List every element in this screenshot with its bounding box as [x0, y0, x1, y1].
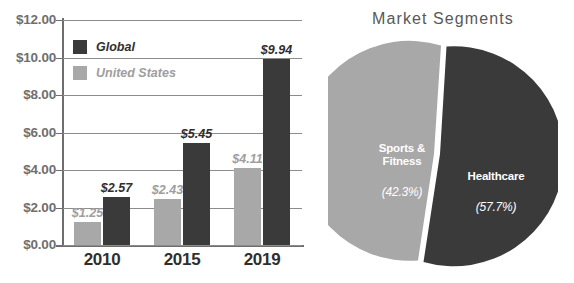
- chart-page: $12.00$10.00$8.00$6.00$4.00$2.00$0.00 $1…: [0, 0, 574, 283]
- y-axis-tick-mark: [56, 208, 63, 209]
- y-axis-labels: $12.00$10.00$8.00$6.00$4.00$2.00$0.00: [0, 0, 56, 283]
- y-axis-tick-mark: [56, 133, 63, 134]
- bar-united-states-2019[interactable]: [234, 168, 261, 245]
- y-axis-tick-label: $12.00: [0, 13, 56, 27]
- y-axis-tick-mark: [56, 95, 63, 96]
- legend-swatch-global-icon: [73, 40, 87, 54]
- y-axis-tick-label: $0.00: [0, 238, 56, 252]
- pie-chart: Market Segments Sports & Fitness (42.3%)…: [312, 0, 574, 283]
- grouped-bar-chart: $12.00$10.00$8.00$6.00$4.00$2.00$0.00 $1…: [0, 0, 312, 283]
- x-axis-label-2015: 2015: [142, 251, 222, 268]
- bar-value-label-global-2010: $2.57: [94, 182, 139, 195]
- pie-chart-title: Market Segments: [312, 11, 574, 27]
- bar-value-label-global-2019: $9.94: [254, 44, 299, 57]
- y-axis-tick-label: $2.00: [0, 201, 56, 215]
- y-axis-tick-mark: [56, 245, 63, 246]
- pie-slice-healthcare[interactable]: [424, 46, 559, 266]
- bar-global-2019[interactable]: [263, 59, 290, 245]
- bar-global-2015[interactable]: [183, 143, 210, 245]
- legend-item-global[interactable]: Global: [73, 36, 176, 58]
- y-axis-tick-label: $6.00: [0, 126, 56, 140]
- bar-united-states-2010[interactable]: [74, 222, 101, 245]
- grid-line: [62, 20, 302, 21]
- y-axis-tick-label: $10.00: [0, 51, 56, 65]
- legend-label-united-states: United States: [96, 67, 176, 80]
- pie-chart-svg: [328, 40, 558, 270]
- legend-label-global: Global: [96, 41, 135, 54]
- x-axis-label-2010: 2010: [62, 251, 142, 268]
- bar-value-label-global-2015: $5.45: [174, 128, 219, 141]
- pie-slice-sports-fitness[interactable]: [328, 41, 441, 261]
- y-axis-tick-label: $4.00: [0, 163, 56, 177]
- y-axis-tick-label: $8.00: [0, 88, 56, 102]
- legend-item-united-states[interactable]: United States: [73, 62, 176, 84]
- bar-united-states-2015[interactable]: [154, 199, 181, 245]
- grid-line: [62, 245, 302, 246]
- bar-chart-legend: Global United States: [73, 36, 176, 88]
- bar-global-2010[interactable]: [103, 197, 130, 245]
- y-axis-tick-mark: [56, 170, 63, 171]
- y-axis-tick-mark: [56, 58, 63, 59]
- x-axis-label-2019: 2019: [222, 251, 302, 268]
- y-axis-tick-mark: [56, 20, 63, 21]
- legend-swatch-united-states-icon: [73, 66, 87, 80]
